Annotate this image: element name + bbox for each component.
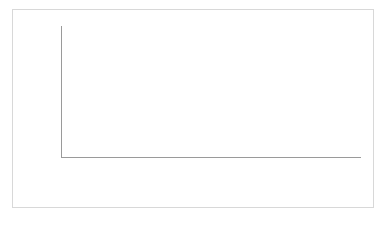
- chart-frame: [12, 9, 374, 208]
- y-axis: [13, 26, 57, 158]
- bar-series-group: [62, 26, 361, 157]
- x-axis: [61, 158, 361, 180]
- plot-area: [61, 26, 361, 158]
